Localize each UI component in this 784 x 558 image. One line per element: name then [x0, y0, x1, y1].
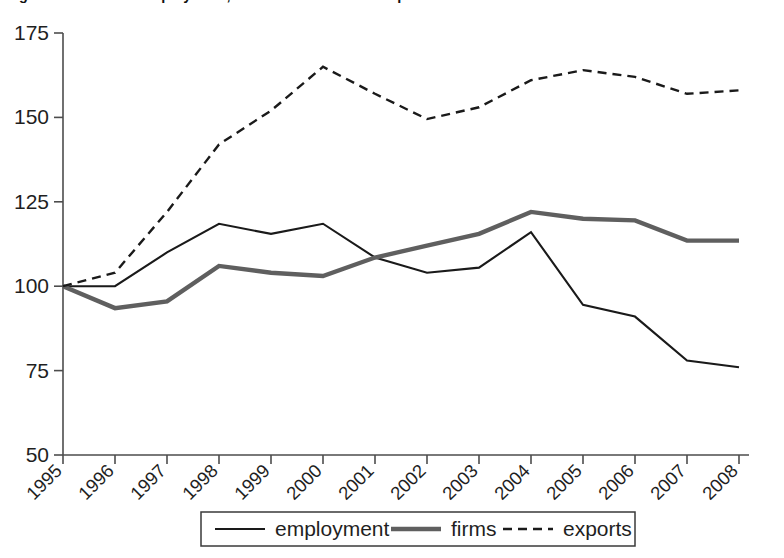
y-tick-label: 75 [26, 359, 49, 382]
x-axis [63, 455, 749, 464]
y-tick-label: 150 [14, 105, 49, 128]
x-tick-label: 2001 [334, 460, 378, 504]
x-tick-label: 1995 [22, 460, 66, 504]
legend-label-employment: employment [275, 517, 390, 540]
x-tick-label: 2007 [646, 460, 690, 504]
legend-label-firms: firms [451, 517, 497, 540]
x-tick-label: 1997 [126, 460, 170, 504]
x-tick-label: 1996 [74, 460, 118, 504]
x-tick-labels: 1995199619971998199920002001200220032004… [22, 460, 742, 504]
y-tick-label: 100 [14, 274, 49, 297]
x-tick-label: 1999 [230, 460, 274, 504]
x-tick-label: 2000 [282, 460, 326, 504]
y-tick-label: 125 [14, 190, 49, 213]
chart-legend: employmentfirmsexports [201, 512, 635, 546]
x-tick-label: 2008 [698, 460, 742, 504]
data-series-group [63, 67, 739, 367]
x-tick-label: 2002 [386, 460, 430, 504]
line-chart-canvas: 5075100125150175 19951996199719981999200… [0, 0, 784, 558]
y-tick-labels: 5075100125150175 [14, 21, 49, 466]
series-line-employment [63, 224, 739, 367]
y-tick-label: 175 [14, 21, 49, 44]
chart-figure: Figure 2.4 Index of employment, number o… [0, 0, 784, 558]
y-tick-label: 50 [26, 443, 49, 466]
series-line-firms [63, 212, 739, 308]
x-tick-label: 2006 [594, 460, 638, 504]
x-tick-label: 2004 [490, 460, 534, 504]
y-axis [54, 33, 63, 455]
x-tick-label: 2005 [542, 460, 586, 504]
x-tick-label: 1998 [178, 460, 222, 504]
x-tick-label: 2003 [438, 460, 482, 504]
legend-label-exports: exports [563, 517, 632, 540]
